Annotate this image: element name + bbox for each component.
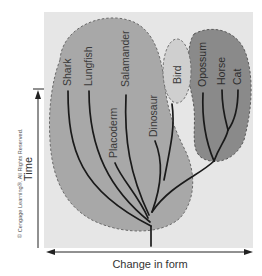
taxon-label-opossum: Opossum (196, 42, 208, 87)
x-axis-left-arrowhead (46, 249, 55, 255)
time-axis (33, 89, 44, 248)
taxon-label-bird: Bird (171, 65, 183, 84)
time-axis-arrowhead (35, 90, 41, 99)
x-axis-right-arrowhead (244, 249, 253, 255)
evolution-tree-figure: Shark Lungfish Salamander Placoderm Dino… (0, 0, 262, 276)
taxon-label-salamander: Salamander (119, 30, 131, 87)
taxon-label-horse: Horse (215, 57, 227, 85)
taxon-label-shark: Shark (61, 58, 73, 86)
change-in-form-label: Change in form (112, 258, 187, 270)
taxon-label-lungfish: Lungfish (82, 46, 94, 86)
copyright-notice: © Cengage Learning®. All Rights Reserved… (17, 128, 23, 238)
taxon-label-placoderm: Placoderm (107, 108, 119, 158)
taxon-label-dinosaur: Dinosaur (147, 94, 159, 137)
taxon-label-cat: Cat (231, 69, 243, 85)
change-in-form-axis (46, 249, 253, 255)
time-axis-label: Time (22, 157, 34, 181)
